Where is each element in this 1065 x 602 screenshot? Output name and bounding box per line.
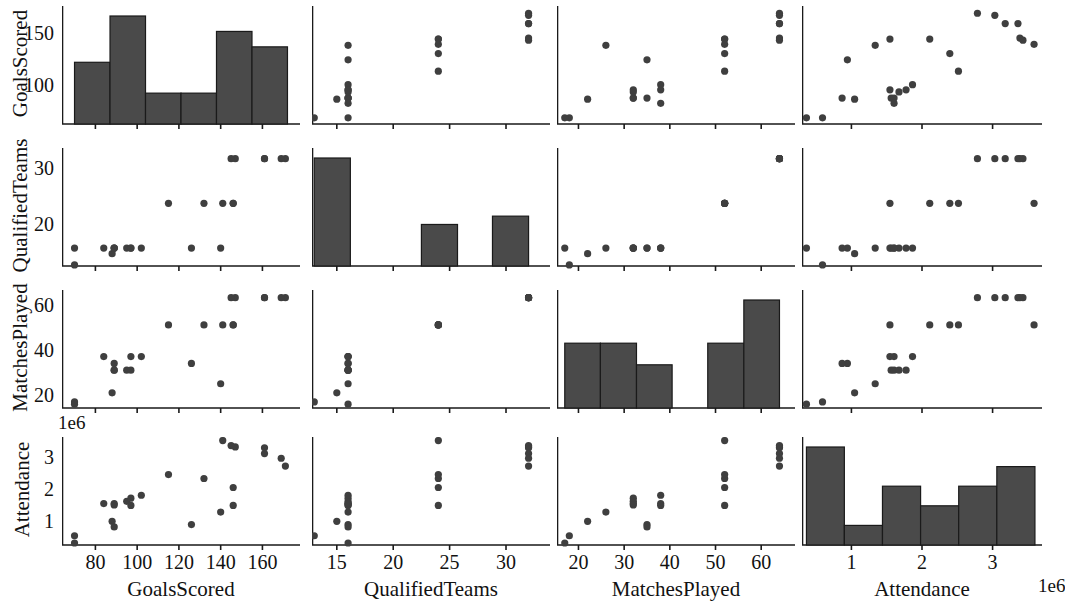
data-point xyxy=(312,532,318,539)
data-point xyxy=(261,294,268,301)
data-point xyxy=(1002,20,1009,27)
x-axis-label-goalsscored: GoalsScored xyxy=(62,577,300,602)
data-point xyxy=(819,114,826,121)
data-point xyxy=(127,353,134,360)
data-point xyxy=(926,321,933,328)
data-point xyxy=(100,500,107,507)
panel-canvas xyxy=(557,437,805,555)
data-point xyxy=(228,442,235,449)
data-point xyxy=(657,245,664,252)
data-point xyxy=(127,245,134,252)
axis-spine xyxy=(803,148,1043,266)
data-point xyxy=(71,532,78,539)
data-point xyxy=(721,41,728,48)
data-point xyxy=(851,96,858,103)
data-point xyxy=(776,37,783,44)
data-point xyxy=(630,86,637,93)
data-point xyxy=(974,10,981,17)
panel-canvas xyxy=(802,6,1052,134)
data-point xyxy=(344,86,351,93)
histogram-bar xyxy=(181,93,216,124)
data-point xyxy=(721,68,728,75)
data-point xyxy=(435,484,442,491)
data-point xyxy=(895,88,902,95)
panel-qualifiedteams-vs-goalsscored xyxy=(62,148,300,266)
data-point xyxy=(435,471,442,478)
data-point xyxy=(435,502,442,509)
panel-attendance-vs-attendance xyxy=(802,437,1042,545)
axis-spine xyxy=(558,437,796,545)
data-point xyxy=(643,245,650,252)
histogram-bar xyxy=(314,158,350,266)
data-point xyxy=(886,321,893,328)
data-point xyxy=(1002,294,1009,301)
data-point xyxy=(525,12,532,19)
panel-goalsscored-vs-goalsscored xyxy=(62,6,300,124)
data-point xyxy=(721,484,728,491)
data-point xyxy=(111,367,118,374)
data-point xyxy=(344,539,351,546)
data-point xyxy=(344,360,351,367)
data-point xyxy=(111,360,118,367)
data-point xyxy=(71,245,78,252)
panel-qualifiedteams-vs-attendance xyxy=(802,148,1042,266)
panel-canvas xyxy=(557,148,805,276)
histogram-bar xyxy=(844,525,882,545)
data-point xyxy=(909,245,916,252)
data-point xyxy=(282,462,289,469)
data-point xyxy=(344,56,351,63)
histogram-bar xyxy=(252,47,287,124)
data-point xyxy=(1019,155,1026,162)
x-tick-label: 2 xyxy=(892,551,952,574)
histogram-bar xyxy=(421,224,457,266)
data-point xyxy=(838,360,845,367)
data-point xyxy=(344,380,351,387)
data-point xyxy=(819,398,826,405)
data-point xyxy=(890,245,897,252)
axis-spine xyxy=(63,290,301,408)
data-point xyxy=(902,245,909,252)
histogram-bar xyxy=(600,343,636,408)
data-point xyxy=(643,56,650,63)
data-point xyxy=(872,380,879,387)
x-axis-label-qualifiedteams: QualifiedTeams xyxy=(312,577,550,602)
data-point xyxy=(333,389,340,396)
data-point xyxy=(819,261,826,268)
data-point xyxy=(138,245,145,252)
data-point xyxy=(200,475,207,482)
panel-canvas xyxy=(62,290,310,418)
data-point xyxy=(71,401,78,408)
histogram-bar xyxy=(882,486,920,545)
data-point xyxy=(312,114,318,121)
histogram-bar xyxy=(146,93,181,124)
panel-matchesplayed-vs-attendance xyxy=(802,290,1042,408)
data-point xyxy=(188,245,195,252)
panel-canvas xyxy=(557,290,805,418)
data-point xyxy=(138,353,145,360)
data-point xyxy=(1014,20,1021,27)
axis-spine xyxy=(558,148,796,266)
x-tick-label: 30 xyxy=(476,551,536,574)
data-point xyxy=(230,502,237,509)
histogram-bar xyxy=(636,365,672,408)
histogram-bar xyxy=(110,16,145,124)
histogram-bar xyxy=(565,343,601,408)
data-point xyxy=(946,321,953,328)
data-point xyxy=(776,20,783,27)
data-point xyxy=(955,321,962,328)
data-point xyxy=(909,81,916,88)
panel-canvas xyxy=(62,148,310,276)
data-point xyxy=(219,321,226,328)
data-point xyxy=(333,96,340,103)
data-point xyxy=(525,20,532,27)
data-point xyxy=(435,41,442,48)
data-point xyxy=(844,56,851,63)
data-point xyxy=(890,353,897,360)
panel-canvas xyxy=(312,6,560,134)
x-tick-label: 60 xyxy=(731,551,791,574)
histogram-bar xyxy=(744,300,780,408)
histogram-bar xyxy=(806,447,844,545)
data-point xyxy=(895,367,902,374)
data-point xyxy=(71,539,78,546)
